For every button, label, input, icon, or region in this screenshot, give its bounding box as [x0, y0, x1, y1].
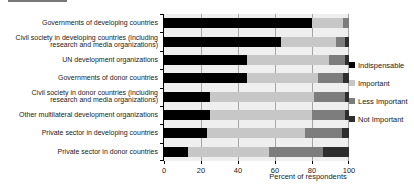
cropped-text-artifact — [8, 0, 67, 2]
bar-segment-less-important — [343, 18, 349, 28]
legend-label: Less Important — [358, 97, 408, 106]
bar-segment-important — [210, 92, 314, 102]
bar-segment-not-important — [345, 37, 349, 47]
bar-segment-not-important — [323, 147, 349, 157]
category-label: Governments of donor countries — [0, 75, 158, 83]
legend-swatch-icon — [349, 80, 355, 86]
legend-item: Important — [349, 74, 408, 92]
x-axis-tick — [348, 161, 349, 164]
category-label: Civil society in developing countries (i… — [0, 34, 158, 49]
bar-segment-indispensable — [164, 37, 281, 47]
stacked-bar-chart-figure: Governments of developing countriesCivil… — [0, 0, 414, 194]
bar-segment-not-important — [342, 128, 349, 138]
bar-row — [164, 18, 349, 28]
bar-segment-important — [247, 73, 317, 83]
x-axis-tick — [312, 161, 313, 164]
category-label: Governments of developing countries — [0, 19, 158, 27]
x-axis-tick — [238, 161, 239, 164]
category-axis-labels: Governments of developing countriesCivil… — [0, 14, 159, 161]
bar-segment-less-important — [329, 55, 346, 65]
y-axis-tick — [160, 69, 164, 70]
category-label: Private sector in developing countries — [0, 130, 158, 138]
y-axis-tick — [160, 143, 164, 144]
x-axis-tick — [164, 161, 165, 164]
bar-row — [164, 73, 349, 83]
legend: IndispensableImportantLess ImportantNot … — [349, 56, 408, 128]
category-label: UN development organizations — [0, 56, 158, 64]
bar-segment-less-important — [336, 37, 345, 47]
legend-item: Indispensable — [349, 56, 408, 74]
x-axis-tick-label: 40 — [226, 166, 250, 175]
bar-segment-important — [188, 147, 269, 157]
bar-row — [164, 92, 349, 102]
y-axis-tick — [160, 14, 164, 15]
bar-segment-less-important — [314, 92, 345, 102]
legend-item: Not Important — [349, 110, 408, 128]
x-axis-tick — [201, 161, 202, 164]
y-axis-tick — [160, 88, 164, 89]
bar-segment-important — [247, 55, 328, 65]
x-axis-title: Percent of respondents — [252, 172, 364, 181]
legend-label: Indispensable — [358, 61, 404, 70]
y-axis-tick — [160, 124, 164, 125]
y-axis-tick — [160, 32, 164, 33]
bar-segment-important — [281, 37, 337, 47]
bar-row — [164, 128, 349, 138]
bar-segment-indispensable — [164, 110, 210, 120]
bar-row — [164, 110, 349, 120]
category-label: Other multilateral development organizat… — [0, 111, 158, 119]
bar-row — [164, 147, 349, 157]
legend-swatch-icon — [349, 62, 355, 68]
bar-row — [164, 37, 349, 47]
y-axis-tick — [160, 106, 164, 107]
bar-segment-indispensable — [164, 147, 188, 157]
category-label: Private sector in donor countries — [0, 148, 158, 156]
bar-segment-less-important — [318, 73, 344, 83]
bar-segment-important — [210, 110, 312, 120]
bar-segment-important — [312, 18, 343, 28]
bar-segment-indispensable — [164, 55, 247, 65]
legend-swatch-icon — [349, 116, 355, 122]
bar-segment-indispensable — [164, 73, 247, 83]
plot-area: 020406080100 — [163, 14, 349, 161]
bar-segment-less-important — [269, 147, 323, 157]
x-axis-tick — [275, 161, 276, 164]
x-axis-tick-label: 0 — [152, 166, 176, 175]
x-axis-tick-label: 20 — [189, 166, 213, 175]
legend-label: Important — [358, 79, 390, 88]
bar-segment-indispensable — [164, 92, 210, 102]
y-axis-tick — [160, 51, 164, 52]
legend-label: Not Important — [358, 115, 403, 124]
category-label: Civil society in donor countries (includ… — [0, 89, 158, 104]
bar-segment-indispensable — [164, 128, 207, 138]
legend-swatch-icon — [349, 98, 355, 104]
bar-segment-less-important — [305, 128, 342, 138]
bar-row — [164, 55, 349, 65]
legend-item: Less Important — [349, 92, 408, 110]
bar-segment-indispensable — [164, 18, 312, 28]
bar-segment-important — [207, 128, 305, 138]
bar-segment-less-important — [312, 110, 345, 120]
